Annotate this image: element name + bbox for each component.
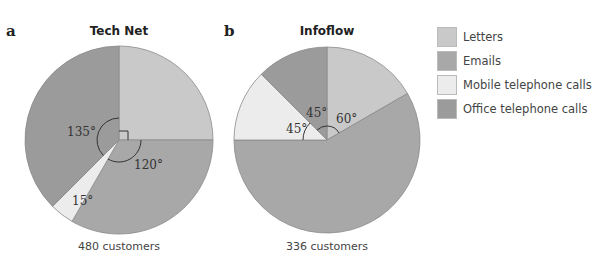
legend-label: Letters [463,30,503,44]
legend-item-letters: Letters [437,27,592,47]
legend-label: Mobile telephone calls [463,78,592,92]
legend-swatch-emails [437,51,457,71]
legend-item-office-calls: Office telephone calls [437,99,592,119]
pie-chart-infoflow: 60°45°45° [0,0,430,266]
angle-label: 45° [306,106,327,120]
legend-label: Office telephone calls [463,102,587,116]
panel-b-caption: 336 customers [267,240,387,253]
legend-swatch-letters [437,27,457,47]
legend-label: Emails [463,54,501,68]
legend-swatch-office-calls [437,99,457,119]
legend-swatch-mobile-calls [437,75,457,95]
legend: Letters Emails Mobile telephone calls Of… [437,27,592,123]
angle-label: 60° [336,112,357,126]
angle-label: 45° [286,122,307,136]
legend-item-mobile-calls: Mobile telephone calls [437,75,592,95]
legend-item-emails: Emails [437,51,592,71]
